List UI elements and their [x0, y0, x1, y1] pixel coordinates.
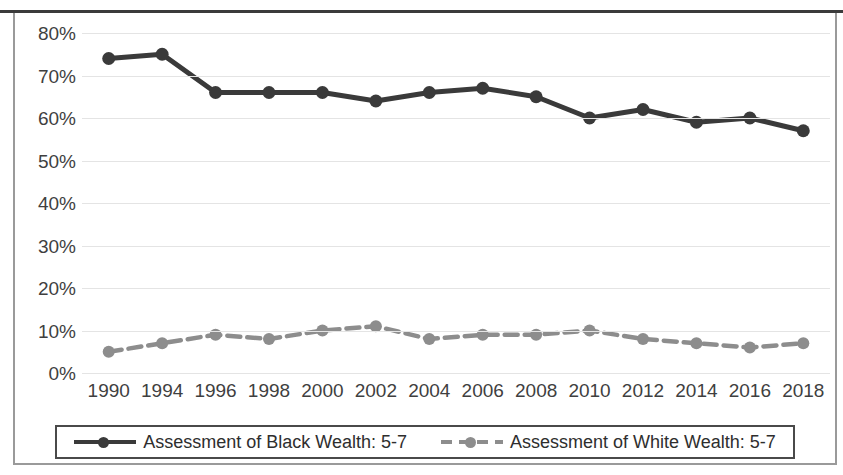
x-axis-tick-label: 2004 — [408, 381, 450, 402]
plot-area-wrapper — [82, 28, 830, 378]
gridline — [82, 288, 830, 289]
data-point-marker[interactable] — [102, 52, 115, 65]
y-axis-tick-label: 10% — [38, 322, 76, 341]
y-axis-tick-label: 70% — [38, 67, 76, 86]
y-axis-tick-label: 50% — [38, 152, 76, 171]
data-point-marker[interactable] — [637, 333, 649, 345]
gridline — [82, 118, 830, 119]
chart-legend: Assessment of Black Wealth: 5-7 Assessme… — [55, 425, 795, 459]
data-series — [103, 320, 810, 358]
gridline — [82, 246, 830, 247]
data-point-marker[interactable] — [797, 124, 810, 137]
x-axis-tick-label: 2016 — [729, 381, 771, 402]
legend-line-marker-icon — [441, 434, 503, 450]
data-point-marker[interactable] — [423, 333, 435, 345]
data-point-marker[interactable] — [369, 95, 382, 108]
data-point-marker[interactable] — [316, 86, 329, 99]
data-point-marker[interactable] — [530, 90, 543, 103]
y-axis-tick-label: 20% — [38, 279, 76, 298]
x-axis-tick-label: 2000 — [301, 381, 343, 402]
data-point-marker[interactable] — [103, 346, 115, 358]
x-axis-tick-label: 1990 — [88, 381, 130, 402]
x-axis-tick-label: 1996 — [194, 381, 236, 402]
y-axis-tick-label: 60% — [38, 109, 76, 128]
data-point-marker[interactable] — [637, 103, 650, 116]
x-axis-tick-label: 2006 — [462, 381, 504, 402]
y-axis-tick-label: 40% — [38, 194, 76, 213]
legend-label-black-wealth: Assessment of Black Wealth: 5-7 — [143, 432, 407, 453]
data-point-marker[interactable] — [263, 333, 275, 345]
gridline — [82, 76, 830, 77]
y-axis-tick-label: 30% — [38, 237, 76, 256]
legend-item-black-wealth[interactable]: Assessment of Black Wealth: 5-7 — [74, 432, 407, 453]
gridline — [82, 161, 830, 162]
data-point-marker[interactable] — [156, 48, 169, 61]
legend-line-marker-icon — [74, 434, 136, 450]
y-axis-tick-label: 80% — [38, 24, 76, 43]
x-axis-tick-label: 2012 — [622, 381, 664, 402]
y-axis: 80%70%60%50%40%30%20%10%0% — [18, 28, 76, 378]
x-axis-tick-label: 2002 — [355, 381, 397, 402]
data-point-marker[interactable] — [263, 86, 276, 99]
data-point-marker[interactable] — [476, 82, 489, 95]
gridline — [82, 373, 830, 374]
gridline — [82, 203, 830, 204]
gridline — [82, 331, 830, 332]
data-point-marker[interactable] — [797, 337, 809, 349]
legend-label-white-wealth: Assessment of White Wealth: 5-7 — [510, 432, 776, 453]
data-point-marker[interactable] — [423, 86, 436, 99]
y-axis-tick-label: 0% — [49, 364, 76, 383]
x-axis-tick-label: 2010 — [568, 381, 610, 402]
x-axis-tick-label: 1998 — [248, 381, 290, 402]
data-series — [102, 48, 810, 138]
plot-area — [82, 33, 830, 373]
x-axis-tick-label: 2014 — [675, 381, 717, 402]
x-axis-tick-label: 2008 — [515, 381, 557, 402]
data-point-marker[interactable] — [209, 86, 222, 99]
chart-screenshot: 80%70%60%50%40%30%20%10%0% 1990199419961… — [0, 0, 843, 475]
x-axis-tick-label: 1994 — [141, 381, 183, 402]
data-point-marker[interactable] — [690, 337, 702, 349]
x-axis: 1990199419961998200020022004200620082010… — [82, 381, 830, 407]
legend-item-white-wealth[interactable]: Assessment of White Wealth: 5-7 — [441, 432, 776, 453]
data-point-marker[interactable] — [156, 337, 168, 349]
x-axis-tick-label: 2018 — [782, 381, 824, 402]
data-point-marker[interactable] — [744, 342, 756, 354]
gridline — [82, 33, 830, 34]
